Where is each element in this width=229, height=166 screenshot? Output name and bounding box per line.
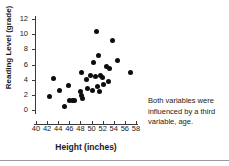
- y-tick-label: 4: [14, 76, 28, 84]
- scatter-point: [110, 38, 115, 43]
- scatter-point: [66, 83, 71, 88]
- scatter-point: [95, 84, 100, 89]
- y-tick-mark: [32, 95, 35, 96]
- scatter-point: [96, 53, 101, 58]
- y-axis-title: Reading Level (grade): [4, 0, 13, 100]
- y-tick-mark: [32, 49, 35, 50]
- scatter-point: [101, 82, 106, 87]
- y-tick-label: 12: [14, 15, 28, 23]
- y-tick-label: 0: [14, 106, 28, 114]
- y-tick-mark: [32, 65, 35, 66]
- y-tick-mark: [32, 34, 35, 35]
- x-tick-label: 58: [128, 125, 144, 133]
- y-tick-label: 10: [14, 30, 28, 38]
- scatter-point: [84, 77, 89, 82]
- y-tick-mark: [32, 110, 35, 111]
- footer-band: [0, 161, 229, 166]
- x-axis-title: Height (inches): [18, 142, 154, 152]
- y-tick-label: 8: [14, 45, 28, 53]
- y-tick-mark: [32, 80, 35, 81]
- scatter-point: [91, 60, 96, 65]
- scatter-point: [100, 75, 105, 80]
- scatter-point: [79, 70, 84, 75]
- y-tick-label: 6: [14, 61, 28, 69]
- scatter-point: [94, 29, 99, 34]
- scatter-point: [47, 94, 52, 99]
- scatter-point: [106, 79, 111, 84]
- scatter-point: [90, 88, 95, 93]
- y-tick-label: 2: [14, 91, 28, 99]
- scatter-point: [128, 70, 133, 75]
- y-tick-mark: [32, 19, 35, 20]
- scatterplot-figure: 024681012 40424446485052545658 Reading L…: [0, 0, 229, 166]
- chart-annotation: Both variables were influenced by a thir…: [148, 96, 226, 128]
- scatter-point: [115, 58, 120, 63]
